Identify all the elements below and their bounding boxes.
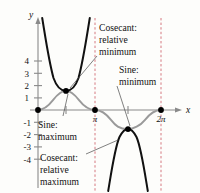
annotation-csc-max-line2: relative xyxy=(40,164,69,175)
point-sine-minimum xyxy=(125,126,131,132)
x-tick-label-pi: π xyxy=(93,114,98,124)
y-tick-label-1: 1 xyxy=(25,93,30,103)
cosecant-upper-branch xyxy=(42,18,90,91)
point-2pi xyxy=(158,107,164,113)
annotation-sine-min-line1: Sine: xyxy=(119,64,139,75)
point-origin xyxy=(35,107,41,113)
y-tick-label-4: 4 xyxy=(25,56,30,66)
annotation-csc-min-line2: relative xyxy=(99,34,128,45)
annotation-sine-min-line2: minimum xyxy=(119,76,157,87)
leader-cosecant-minimum xyxy=(70,56,97,88)
y-tick-label-neg3: -3 xyxy=(24,142,32,152)
annotation-sine-max-line2: maximum xyxy=(38,131,77,142)
trig-graph-figure: y x 4 3 2 1 -1 -2 -3 -4 π 2π Cosecant: r… xyxy=(0,0,200,193)
annotation-csc-max-line3: maximum xyxy=(40,176,79,187)
point-sine-maximum xyxy=(63,88,69,94)
annotation-sine-minimum: Sine: minimum xyxy=(119,64,157,87)
annotation-csc-min-line1: Cosecant: xyxy=(99,22,137,33)
x-axis-label: x xyxy=(185,105,191,115)
y-tick-label-neg2: -2 xyxy=(24,130,32,140)
leader-cosecant-maximum xyxy=(86,140,118,154)
point-pi xyxy=(92,107,98,113)
y-axis-arrow xyxy=(35,17,40,24)
annotation-cosecant-relative-minimum: Cosecant: relative minimum xyxy=(99,22,137,57)
y-tick-label-2: 2 xyxy=(25,81,30,91)
y-tick-label-3: 3 xyxy=(25,69,30,79)
annotation-cosecant-relative-maximum: Cosecant: relative maximum xyxy=(40,152,79,187)
y-tick-label-neg4: -4 xyxy=(24,155,32,165)
y-axis-label: y xyxy=(28,10,34,20)
x-axis-arrow xyxy=(175,107,182,112)
annotation-sine-maximum: Sine: maximum xyxy=(38,119,77,142)
annotation-sine-max-line1: Sine: xyxy=(38,119,58,130)
annotation-csc-max-line1: Cosecant: xyxy=(40,152,78,163)
annotation-csc-min-line3: minimum xyxy=(99,46,137,57)
x-tick-label-2pi: 2π xyxy=(156,114,166,124)
cosecant-lower-branch xyxy=(108,129,148,191)
y-tick-label-neg1: -1 xyxy=(24,118,32,128)
